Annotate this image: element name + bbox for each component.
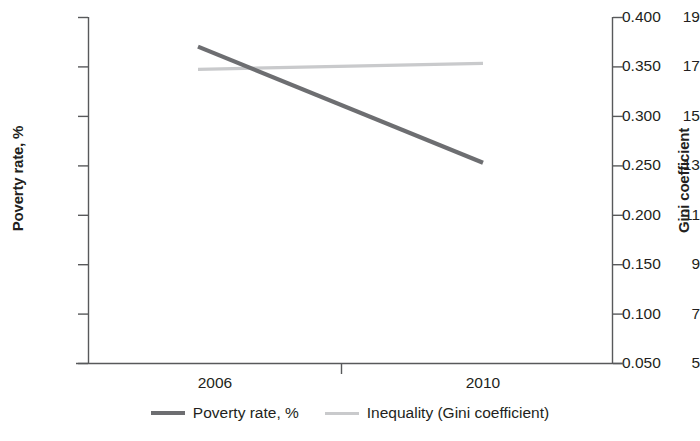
- chart-legend: Poverty rate, % Inequality (Gini coeffic…: [0, 404, 700, 422]
- legend-label-poverty-rate: Poverty rate, %: [193, 404, 299, 422]
- left-axis-ticks: [78, 18, 88, 364]
- right-axis-ticks: [613, 18, 623, 364]
- legend-item-poverty-rate: Poverty rate, %: [151, 404, 299, 422]
- legend-label-inequality-gini: Inequality (Gini coefficient): [367, 404, 549, 422]
- legend-item-inequality-gini: Inequality (Gini coefficient): [325, 404, 549, 422]
- legend-swatch-poverty-rate: [151, 411, 185, 415]
- legend-swatch-inequality-gini: [325, 412, 359, 415]
- plot-area: [0, 0, 700, 441]
- chart-container: Poverty rate, % Gini coefficient 19 17 1…: [0, 0, 700, 441]
